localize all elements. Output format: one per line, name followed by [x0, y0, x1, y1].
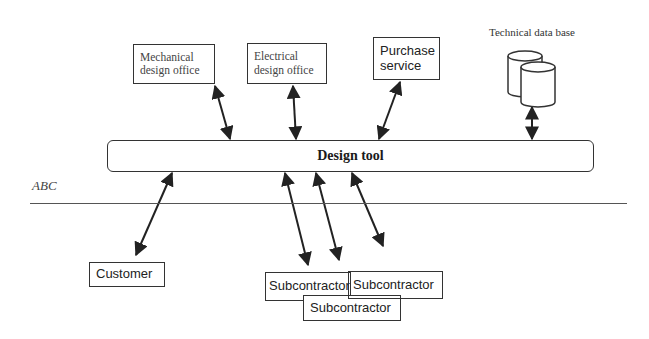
node-label: Subcontractor	[353, 278, 434, 293]
arrow-electrical-design-tool	[293, 86, 296, 139]
database-cylinders-icon	[508, 51, 555, 107]
boundary-label: ABC	[32, 178, 57, 194]
boundary-line	[30, 203, 627, 204]
node-subcontractor-2: Subcontractor	[348, 271, 443, 299]
arrow-purchase-design-tool	[379, 82, 400, 139]
node-label: Subcontractor	[269, 279, 350, 294]
arrow-mechanical-design-tool	[215, 86, 230, 139]
node-label-line1: Electrical	[254, 50, 314, 63]
node-mechanical-design-office: Mechanical design office	[133, 44, 215, 84]
arrow-customer-design-tool	[136, 173, 172, 255]
arrow-subcontractor-3-design-tool	[352, 173, 383, 246]
node-label: Subcontractor	[310, 301, 391, 316]
node-label-line1: Purchase	[380, 44, 435, 59]
node-electrical-design-office: Electrical design office	[247, 43, 327, 84]
design-tool-label: Design tool	[317, 148, 384, 164]
arrow-subcontractor-2-design-tool	[316, 173, 339, 260]
arrow-subcontractor-1-design-tool	[285, 173, 308, 265]
node-label: Customer	[96, 267, 152, 282]
node-label-line1: Mechanical	[140, 51, 200, 64]
node-customer: Customer	[89, 262, 165, 287]
database-label: Technical data base	[489, 26, 575, 38]
design-tool-node: Design tool	[107, 140, 594, 172]
node-label-line2: design office	[140, 64, 200, 77]
node-label-line2: design office	[254, 64, 314, 77]
node-purchase-service: Purchase service	[373, 37, 440, 80]
node-label-line2: service	[380, 59, 435, 74]
